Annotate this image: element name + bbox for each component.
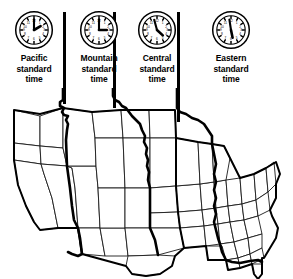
svg-text:11: 11 <box>27 21 31 25</box>
zone-label-central-line2: standard <box>126 64 188 75</box>
zone-label-pacific-line3: time <box>3 74 65 85</box>
zone-label-mountain-line3: time <box>68 74 130 85</box>
zone-label-pacific-line2: standard <box>3 64 65 75</box>
svg-text:4: 4 <box>239 32 241 36</box>
svg-text:10: 10 <box>23 25 27 29</box>
svg-text:11: 11 <box>92 21 96 25</box>
svg-text:11: 11 <box>150 21 154 25</box>
svg-text:5: 5 <box>236 36 238 40</box>
svg-text:10: 10 <box>88 25 92 29</box>
svg-text:7: 7 <box>151 36 153 40</box>
analog-clock-icon-mountain: 12 1 2 3 4 5 6 7 8 9 10 11 <box>79 10 119 50</box>
zone-label-pacific-line1: Pacific <box>3 53 65 64</box>
zone-label-central-line1: Central <box>126 53 188 64</box>
svg-text:1: 1 <box>236 21 238 25</box>
zone-label-eastern-line2: standard <box>200 64 262 75</box>
svg-text:6: 6 <box>156 37 158 41</box>
time-zone-figure: 12 1 2 3 4 5 6 7 8 9 10 11 Paci <box>0 0 293 279</box>
svg-text:8: 8 <box>221 32 223 36</box>
zone-label-central-line3: time <box>126 74 188 85</box>
zone-label-pacific: Pacific standard time <box>3 53 65 85</box>
zone-label-eastern-line1: Eastern <box>200 53 262 64</box>
analog-clock-icon-eastern: 12 1 2 3 4 5 6 7 8 9 10 11 <box>211 10 251 50</box>
svg-text:4: 4 <box>42 32 44 36</box>
svg-text:6: 6 <box>98 37 100 41</box>
svg-text:7: 7 <box>28 36 30 40</box>
svg-text:6: 6 <box>33 37 35 41</box>
svg-text:8: 8 <box>89 32 91 36</box>
zone-column-eastern: 12 1 2 3 4 5 6 7 8 9 10 11 East <box>200 10 262 85</box>
svg-text:9: 9 <box>23 28 25 32</box>
us-map-svg <box>0 88 293 279</box>
svg-text:8: 8 <box>24 32 26 36</box>
analog-clock-icon-pacific: 12 1 2 3 4 5 6 7 8 9 10 11 <box>14 10 54 50</box>
svg-text:9: 9 <box>146 28 148 32</box>
svg-text:5: 5 <box>39 36 41 40</box>
svg-text:10: 10 <box>220 25 224 29</box>
zone-column-pacific: 12 1 2 3 4 5 6 7 8 9 10 11 Paci <box>3 10 65 85</box>
zone-label-central: Central standard time <box>126 53 188 85</box>
svg-text:7: 7 <box>93 36 95 40</box>
svg-text:8: 8 <box>147 32 149 36</box>
clock-svg-pacific: 12 1 2 3 4 5 6 7 8 9 10 11 <box>14 10 54 50</box>
clock-svg-eastern: 12 1 2 3 4 5 6 7 8 9 10 11 <box>211 10 251 50</box>
svg-text:1: 1 <box>162 21 164 25</box>
svg-text:10: 10 <box>146 25 150 29</box>
zone-label-mountain-line2: standard <box>68 64 130 75</box>
svg-text:9: 9 <box>220 28 222 32</box>
svg-text:5: 5 <box>104 36 106 40</box>
us-map <box>0 88 293 279</box>
zone-column-central: 12 1 2 3 4 5 6 7 8 9 10 11 Cent <box>126 10 188 85</box>
clock-svg-central: 12 1 2 3 4 5 6 7 8 9 10 11 <box>137 10 177 50</box>
svg-text:1: 1 <box>39 21 41 25</box>
svg-text:4: 4 <box>165 32 167 36</box>
analog-clock-icon-central: 12 1 2 3 4 5 6 7 8 9 10 11 <box>137 10 177 50</box>
zone-label-eastern-line3: time <box>200 74 262 85</box>
zone-column-mountain: 12 1 2 3 4 5 6 7 8 9 10 11 Moun <box>68 10 130 85</box>
svg-text:1: 1 <box>104 21 106 25</box>
svg-text:7: 7 <box>225 36 227 40</box>
svg-text:4: 4 <box>107 32 109 36</box>
zone-label-mountain-line1: Mountain <box>68 53 130 64</box>
zone-label-eastern: Eastern standard time <box>200 53 262 85</box>
svg-text:11: 11 <box>224 21 228 25</box>
clock-svg-mountain: 12 1 2 3 4 5 6 7 8 9 10 11 <box>79 10 119 50</box>
zone-label-mountain: Mountain standard time <box>68 53 130 85</box>
svg-text:9: 9 <box>88 28 90 32</box>
